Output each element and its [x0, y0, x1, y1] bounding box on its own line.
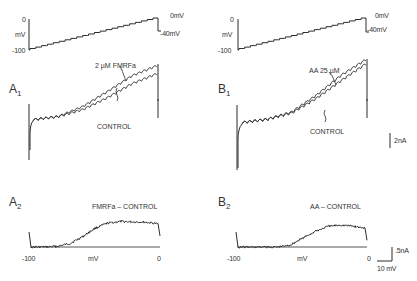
- a1-treated-label: 2 µM FMRFa: [95, 62, 136, 69]
- ramp-right-axis-top: 0: [230, 16, 234, 23]
- a2-x-mid: mV: [88, 255, 98, 262]
- ramp-right-end-high: 0mV: [375, 12, 389, 19]
- a2-x-right: 0: [157, 255, 161, 262]
- b1-control-label: CONTROL: [310, 128, 344, 135]
- panel-label-a2: A2: [9, 196, 21, 213]
- b2-scale-y-label: .5nA: [395, 247, 409, 254]
- panel-label-b1: B1: [218, 83, 230, 100]
- b2-x-mid: mV: [297, 255, 307, 262]
- ramp-left-axis-top: 0: [22, 16, 26, 23]
- panel-label-a1: A1: [9, 83, 21, 100]
- b2-title: AA – CONTROL: [310, 203, 361, 210]
- ramp-right-axis-unit: mV: [222, 31, 232, 38]
- ramp-left-axis-bottom: -100: [12, 47, 25, 54]
- b1-scale-label: 2nA: [394, 137, 406, 144]
- ramp-left-axis-unit: mV: [15, 31, 25, 38]
- a2-difference-trace: [29, 221, 160, 249]
- a2-title: FMRFa – CONTROL: [92, 203, 157, 210]
- voltage-ramp-left: [29, 18, 161, 50]
- ramp-left-end-low: -40mV: [160, 30, 180, 37]
- b1-treated-label: AA 25 µM: [309, 67, 340, 74]
- ramp-left-end-high: 0mV: [170, 12, 184, 19]
- a1-control-label: CONTROL: [97, 123, 131, 130]
- b2-x-right: 0: [367, 255, 371, 262]
- ramp-right-axis-bottom: -100: [218, 47, 231, 54]
- figure-canvas: [0, 0, 417, 281]
- b2-x-left: -100: [227, 255, 240, 262]
- ramp-right-end-low: -40mV: [367, 26, 387, 33]
- voltage-ramp-right: [238, 18, 369, 50]
- panel-label-b2: B2: [218, 196, 230, 213]
- a2-x-left: -100: [22, 255, 35, 262]
- b1-current-traces: [237, 59, 390, 170]
- a1-current-traces: [29, 64, 159, 160]
- b2-scale-x-label: 10 mV: [377, 265, 396, 272]
